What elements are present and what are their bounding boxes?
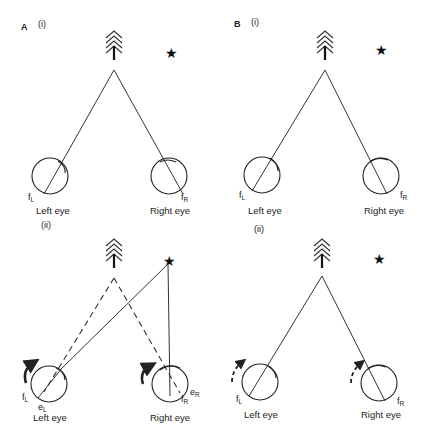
left-eye-label: Left eye — [36, 205, 70, 216]
left-eye-label: Left eye — [33, 412, 67, 423]
right-eye-label: Right eye — [150, 412, 190, 423]
right-eye-icon — [361, 365, 397, 401]
binocular-fixation-diagram: A (i) ★ fL fR Left eye Right eye (ii) ★ … — [0, 0, 425, 436]
panel-b-bottom: (ii) ★ fL fR Left eye Right eye — [232, 224, 405, 420]
panel-a-sub-i: (i) — [38, 19, 46, 29]
fovea-left-label: fL — [236, 394, 243, 405]
right-eye-label: Right eye — [364, 205, 404, 216]
panel-a-letter: A — [21, 22, 28, 32]
panel-b-top: B (i) ★ fL fR Left eye Right eye — [234, 17, 408, 216]
left-eye-label: Left eye — [244, 409, 278, 420]
panel-b-letter: B — [234, 19, 241, 29]
rotation-arrow-icon — [351, 363, 361, 383]
star-target-icon: ★ — [373, 251, 386, 267]
star-target-icon: ★ — [375, 42, 388, 58]
right-eye-icon — [363, 158, 399, 194]
left-eye-icon — [32, 158, 68, 194]
panel-a-bottom: (ii) ★ fL eL fR eR Left eye Right eye — [22, 220, 200, 423]
fovea-right-label: fR — [181, 192, 189, 203]
fovea-left-label: fL — [28, 192, 35, 203]
fovea-right-label: fR — [400, 190, 408, 201]
fovea-right-label: fR — [181, 394, 189, 405]
panel-a-sub-ii: (ii) — [41, 220, 51, 230]
panel-a-top: A (i) ★ fL fR Left eye Right eye — [21, 19, 190, 216]
fovea-left-label: fL — [239, 190, 246, 201]
tree-arrow-icon — [106, 239, 122, 268]
rotation-arrow-icon — [232, 362, 242, 382]
eye-right-label: eR — [190, 387, 200, 398]
fovea-right-label: fR — [397, 396, 405, 407]
panel-b-sub-i: (i) — [251, 17, 259, 27]
star-target-icon: ★ — [165, 45, 178, 61]
right-eye-label: Right eye — [150, 205, 190, 216]
tree-arrow-icon — [314, 239, 330, 268]
panel-b-sub-ii: (ii) — [254, 224, 264, 234]
rotation-arrow-icon — [142, 366, 150, 384]
tree-arrow-icon — [106, 31, 122, 60]
right-eye-cornea — [160, 160, 176, 162]
right-eye-icon — [151, 158, 187, 194]
left-eye-label: Left eye — [248, 205, 282, 216]
right-eye-label: Right eye — [361, 409, 401, 420]
fovea-left-label: fL — [22, 392, 29, 403]
tree-arrow-icon — [317, 31, 333, 60]
